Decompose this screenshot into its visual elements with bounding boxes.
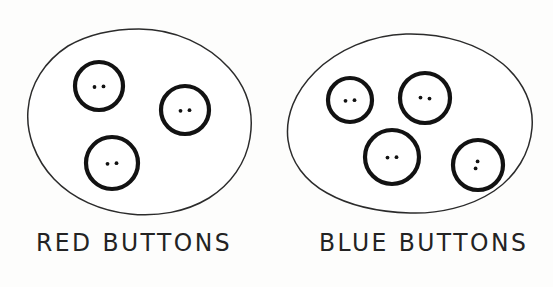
button-hole-right xyxy=(428,97,432,101)
button-hole-left xyxy=(344,99,348,103)
button-ring xyxy=(365,130,419,184)
button-red-2 xyxy=(161,86,209,134)
button-ring xyxy=(453,140,503,190)
button-hole-top xyxy=(476,160,480,164)
button-hole-right xyxy=(115,161,119,165)
button-ring xyxy=(328,78,372,122)
button-hole-left xyxy=(106,162,110,166)
group-label-blue-buttons: BLUE BUTTONS xyxy=(319,228,528,257)
button-hole-bottom xyxy=(474,167,478,171)
button-ring xyxy=(400,73,450,123)
button-hole-left xyxy=(419,96,423,100)
button-hole-right xyxy=(102,85,106,89)
figure-canvas: RED BUTTONS BLUE BUTTONS xyxy=(0,0,553,287)
group-red-buttons xyxy=(28,29,251,215)
button-red-1 xyxy=(75,62,123,110)
blob-outline-blue xyxy=(287,34,532,213)
button-hole-left xyxy=(93,85,97,89)
button-ring xyxy=(75,62,123,110)
button-blue-2 xyxy=(400,73,450,123)
group-blue-buttons xyxy=(287,34,532,213)
button-hole-left xyxy=(179,109,183,113)
button-hole-right xyxy=(395,155,399,159)
group-label-red-buttons: RED BUTTONS xyxy=(36,228,232,257)
button-ring xyxy=(161,86,209,134)
button-blue-1 xyxy=(328,78,372,122)
button-blue-3 xyxy=(365,130,419,184)
button-hole-left xyxy=(386,156,390,160)
button-blue-4 xyxy=(453,140,503,190)
button-red-3 xyxy=(86,137,138,189)
blob-outline-red xyxy=(28,29,251,215)
button-hole-right xyxy=(353,98,357,102)
button-ring xyxy=(86,137,138,189)
button-hole-right xyxy=(188,108,192,112)
